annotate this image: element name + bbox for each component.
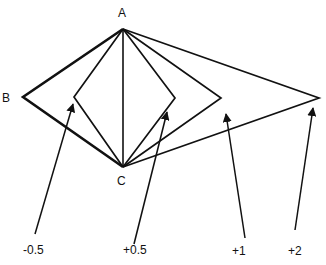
label-plus-0-5: +0.5: [123, 244, 147, 256]
diagram-canvas: [0, 0, 326, 265]
label-a: A: [118, 7, 126, 19]
arrow-plus-1: [226, 114, 245, 238]
label-plus-1: +1: [232, 245, 246, 257]
shape-plus-0-5: [123, 29, 175, 167]
arrow-plus-2: [295, 108, 313, 230]
label-minus-0-5: -0.5: [23, 244, 44, 256]
label-b: B: [2, 92, 10, 104]
shape-minus-0-5: [74, 29, 123, 167]
arrow-minus-0-5: [35, 104, 73, 234]
label-plus-2: +2: [288, 245, 302, 257]
diagram: A B C -0.5 +0.5 +1 +2: [0, 0, 326, 265]
label-c: C: [117, 175, 126, 187]
